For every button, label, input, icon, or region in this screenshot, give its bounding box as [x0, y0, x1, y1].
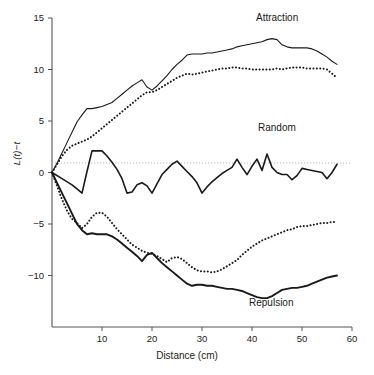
x-axis-title: Distance (cm) — [0, 350, 374, 361]
x-tick-label: 40 — [247, 333, 258, 344]
y-tick-label: 10 — [33, 64, 44, 75]
series-line — [52, 39, 337, 173]
y-tick-label: 15 — [33, 12, 44, 23]
x-tick-label: 30 — [197, 333, 208, 344]
y-tick-label: −5 — [33, 218, 44, 229]
x-tick-label: 50 — [297, 333, 308, 344]
y-axis-title: L(t)−t — [11, 124, 22, 184]
series-line — [52, 173, 337, 299]
annotation-repulsion: Repulsion — [249, 297, 293, 308]
y-tick-label: −10 — [28, 270, 44, 281]
annotation-random: Random — [258, 122, 296, 133]
series-line — [52, 67, 337, 172]
x-tick-label: 20 — [147, 333, 158, 344]
chart-figure: 102030405060151050−5−10 L(t)−t Distance … — [0, 0, 374, 375]
series-line — [52, 151, 337, 193]
x-tick-label: 60 — [347, 333, 358, 344]
y-tick-label: 5 — [39, 115, 44, 126]
axes-group — [52, 18, 352, 327]
series-line — [52, 173, 337, 273]
y-tick-label: 0 — [39, 167, 44, 178]
data-series-group — [52, 39, 337, 299]
annotation-attraction: Attraction — [256, 12, 298, 23]
x-tick-label: 10 — [97, 333, 108, 344]
line-chart-canvas: 102030405060151050−5−10 — [0, 0, 374, 375]
